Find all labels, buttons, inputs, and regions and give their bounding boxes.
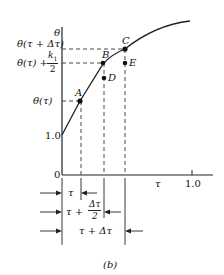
- point-b: [101, 61, 106, 66]
- point-a: [77, 98, 82, 103]
- point-d: [102, 76, 107, 81]
- label-theta-tau-dt: θ(τ + Δτ): [17, 39, 64, 49]
- x-tick-1-label: 1.0: [185, 179, 201, 189]
- label-a: A: [75, 88, 82, 98]
- label-e: E: [129, 58, 136, 68]
- dashed-guides: [62, 49, 125, 175]
- point-c: [122, 46, 127, 51]
- dim-tau-half-prefix: τ +: [66, 207, 83, 217]
- origin-label: 0: [54, 170, 60, 180]
- dim-tau: τ: [68, 188, 74, 198]
- point-e: [123, 61, 128, 66]
- figure-caption: (b): [103, 260, 117, 270]
- label-b: B: [102, 50, 109, 60]
- x-axis-symbol: τ: [155, 179, 161, 189]
- runge-kutta-diagram: θ θ(τ + Δτ) θ(τ) + k1 2 θ(τ) 1.0 0 τ 1.0…: [0, 0, 224, 275]
- y-tick-1: 1.0: [45, 131, 61, 141]
- label-theta-tau: θ(τ): [33, 96, 52, 106]
- fraction-k1-over-2: k1 2: [47, 51, 58, 74]
- dim-tau-dt: τ + Δτ: [79, 226, 112, 236]
- fraction-dt-over-2: Δτ 2: [88, 200, 101, 221]
- y-axis-symbol: θ: [54, 28, 60, 38]
- label-c: C: [122, 36, 130, 46]
- label-theta-tau-plus: θ(τ) +: [17, 58, 48, 68]
- label-d: D: [108, 73, 116, 83]
